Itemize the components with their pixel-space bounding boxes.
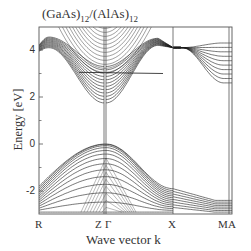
- band-line: [87, 172, 132, 212]
- band-line: [106, 151, 173, 196]
- band-lines: [39, 0, 232, 212]
- band-line: [106, 144, 173, 190]
- band-structure-figure: (GaAs)12/(AlAs)12 Energy [eV] 4 2 0 -2 R…: [0, 0, 251, 251]
- band-line: [173, 207, 232, 212]
- band-line: [173, 48, 232, 52]
- band-line: [39, 0, 173, 28]
- band-line: [39, 184, 106, 206]
- band-line: [39, 45, 104, 93]
- plot-area: [0, 0, 251, 251]
- band-line: [173, 48, 232, 70]
- band-line: [79, 72, 163, 73]
- band-line: [39, 48, 104, 103]
- band-line: [84, 165, 134, 212]
- band-line: [102, 207, 122, 212]
- band-line: [106, 148, 173, 195]
